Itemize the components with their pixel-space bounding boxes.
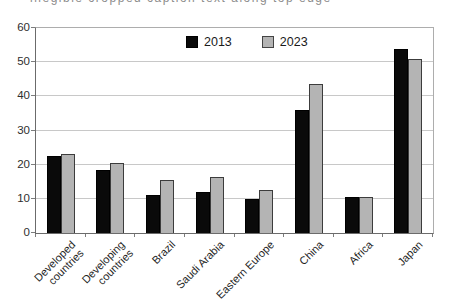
- x-label-developed-countries: Developedcountries: [33, 239, 86, 292]
- gridline-50: [36, 61, 433, 62]
- y-tick-mark-0: [31, 232, 35, 233]
- y-tick-label-30: 30: [0, 123, 30, 137]
- bar-2023-eastern-europe: [259, 190, 273, 233]
- y-tick-label-60: 60: [0, 20, 30, 34]
- x-tick-mark-2: [134, 234, 135, 237]
- y-tick-mark-10: [31, 198, 35, 199]
- legend-swatch-2013: [186, 36, 198, 48]
- y-tick-label-10: 10: [0, 191, 30, 205]
- bar-2023-china: [309, 84, 323, 233]
- x-tick-mark-8: [432, 234, 433, 237]
- x-tick-mark-7: [382, 234, 383, 237]
- y-tick-mark-20: [31, 164, 35, 165]
- x-label-brazil: Brazil: [150, 239, 178, 267]
- bar-2013-developed-countries: [47, 156, 61, 233]
- bar-2013-japan: [394, 49, 408, 234]
- y-tick-mark-60: [31, 27, 35, 28]
- bar-2013-africa: [345, 197, 359, 233]
- legend-item-2013: 2013: [186, 35, 232, 49]
- x-label-developing-countries: Developingcountries: [81, 239, 136, 294]
- bar-2023-developing-countries: [110, 163, 124, 233]
- x-label-africa: Africa: [348, 239, 376, 267]
- y-tick-label-0: 0: [0, 225, 30, 239]
- x-tick-mark-5: [283, 234, 284, 237]
- bar-2013-brazil: [146, 195, 160, 233]
- legend: 2013 2023: [186, 35, 308, 49]
- x-label-china: China: [298, 239, 326, 267]
- bar-chart: 2013 2023 0102030405060 Developedcountri…: [0, 0, 451, 304]
- x-tick-mark-6: [333, 234, 334, 237]
- bar-2013-developing-countries: [96, 170, 110, 233]
- x-tick-mark-0: [35, 234, 36, 237]
- gridline-20: [36, 164, 433, 165]
- legend-item-2023: 2023: [262, 35, 308, 49]
- y-tick-label-40: 40: [0, 88, 30, 102]
- bar-2013-eastern-europe: [245, 199, 259, 233]
- gridline-40: [36, 95, 433, 96]
- bar-2013-china: [295, 110, 309, 233]
- x-tick-mark-3: [184, 234, 185, 237]
- x-label-japan: Japan: [396, 239, 425, 268]
- y-tick-label-20: 20: [0, 157, 30, 171]
- legend-label-2023: 2023: [280, 35, 308, 49]
- bar-2023-saudi-arabia: [210, 177, 224, 233]
- bar-2013-saudi-arabia: [196, 192, 210, 233]
- bar-2023-africa: [359, 197, 373, 233]
- bar-2023-developed-countries: [61, 154, 75, 233]
- x-label-saudi-arabia: Saudi Arabia: [175, 239, 227, 291]
- x-tick-mark-4: [234, 234, 235, 237]
- x-tick-mark-1: [85, 234, 86, 237]
- gridline-30: [36, 130, 433, 131]
- y-tick-mark-30: [31, 130, 35, 131]
- legend-swatch-2023: [262, 36, 274, 48]
- y-tick-mark-50: [31, 61, 35, 62]
- bar-2023-japan: [408, 59, 422, 233]
- y-tick-mark-40: [31, 95, 35, 96]
- plot-area: 2013 2023: [35, 27, 434, 234]
- bar-2023-brazil: [160, 180, 174, 233]
- screenshot-root: illegible cropped caption text along top…: [0, 0, 451, 304]
- legend-label-2013: 2013: [204, 35, 232, 49]
- y-tick-label-50: 50: [0, 54, 30, 68]
